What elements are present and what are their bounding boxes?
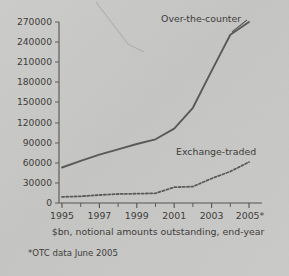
x-tick-label-2003: 2003 [200, 210, 224, 221]
x-tick-label-1995: 1995 [50, 210, 74, 221]
y-tick-label-90000: 90000 [23, 137, 52, 148]
y-tick-label-150000: 150000 [17, 96, 52, 107]
y-tick-label-120000: 120000 [17, 117, 52, 128]
y-tick-label-210000: 210000 [17, 56, 52, 67]
x-tick-label-1997: 1997 [87, 210, 111, 221]
y-tick-label-0: 0 [46, 197, 52, 208]
y-tick-label-180000: 180000 [17, 76, 52, 87]
chart-figure: 0 30000 60000 90000 120000 150000 180000… [0, 0, 289, 276]
annotation-over-the-counter: Over-the-counter [161, 13, 241, 24]
chart-caption: $bn, notional amounts outstanding, end-y… [52, 226, 265, 237]
annotation-exchange-traded: Exchange-traded [176, 146, 256, 157]
scan-streak-artifact-2 [128, 44, 144, 52]
y-axis-ticks [55, 22, 59, 203]
series-line-exchange-traded [62, 162, 249, 197]
y-tick-label-60000: 60000 [23, 157, 52, 168]
x-tick-label-1999: 1999 [125, 210, 149, 221]
chart-footnote: *OTC data June 2005 [28, 248, 118, 258]
scan-streak-artifact [96, 2, 128, 44]
derivatives-notional-line-chart: 0 30000 60000 90000 120000 150000 180000… [0, 0, 289, 276]
x-tick-label-2005: 2005* [236, 210, 265, 221]
x-tick-label-2001: 2001 [162, 210, 186, 221]
y-tick-label-30000: 30000 [23, 177, 52, 188]
y-tick-label-240000: 240000 [17, 36, 52, 47]
x-axis-ticks [62, 203, 249, 208]
y-tick-label-270000: 270000 [17, 16, 52, 27]
